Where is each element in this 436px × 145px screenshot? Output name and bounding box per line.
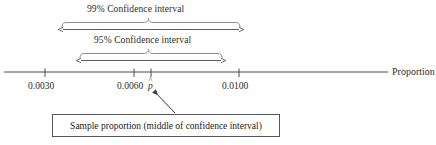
ci99-label: 99% Confidence interval [87, 5, 184, 15]
p-hat-symbol: p [148, 82, 153, 92]
p-hat-glyph: p [148, 82, 153, 92]
callout-pointer [154, 91, 175, 113]
callout-box: Sample proportion (middle of confidence … [52, 114, 280, 137]
ci95-label: 95% Confidence interval [94, 36, 191, 46]
confidence-interval-figure: 99% Confidence interval 95% Confidence i… [0, 0, 436, 145]
ci95-brace [80, 50, 222, 59]
tick-label-0.0100: 0.0100 [222, 82, 248, 92]
axis-ticks [45, 69, 239, 78]
axis-label: Proportion [392, 67, 435, 77]
tick-label-0.0030: 0.0030 [28, 82, 54, 92]
ci99-brace [62, 19, 240, 28]
callout-text: Sample proportion (middle of confidence … [70, 121, 262, 131]
tick-label-0.0060: 0.0060 [117, 82, 143, 92]
